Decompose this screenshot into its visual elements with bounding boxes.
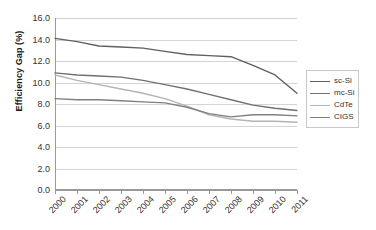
y-axis-tick-label: 6.0	[37, 121, 50, 131]
series-line-sc-si	[55, 38, 297, 93]
legend-swatch-icon	[310, 93, 330, 94]
series-lines	[55, 18, 297, 190]
legend-item-sc-si[interactable]: sc-Si	[310, 75, 354, 87]
x-axis-tickmark	[297, 190, 298, 194]
legend-item-mc-si[interactable]: mc-Si	[310, 87, 354, 99]
legend-swatch-icon	[310, 117, 330, 118]
legend-item-cdte[interactable]: CdTe	[310, 99, 354, 111]
legend-label: CdTe	[334, 101, 353, 109]
series-line-cigs	[55, 99, 297, 117]
legend-item-cigs[interactable]: CIGS	[310, 111, 354, 123]
efficiency-gap-line-chart: Efficiency Gap (%) 16.014.012.010.08.06.…	[0, 0, 376, 230]
y-axis-tick-label: 14.0	[32, 35, 50, 45]
chart-legend: sc-Simc-SiCdTeCIGS	[306, 70, 359, 128]
y-axis-tick-label: 10.0	[32, 78, 50, 88]
y-axis-tick-label: 12.0	[32, 56, 50, 66]
x-axis-tick-labels: 2000200120022003200420052006200720082009…	[55, 194, 297, 230]
y-axis-tick-label: 16.0	[32, 13, 50, 23]
y-axis-tick-label: 0.0	[37, 185, 50, 195]
legend-swatch-icon	[310, 81, 330, 82]
legend-label: sc-Si	[334, 77, 352, 85]
y-axis-tick-label: 4.0	[37, 142, 50, 152]
y-axis-tick-label: 8.0	[37, 99, 50, 109]
legend-label: mc-Si	[334, 89, 354, 97]
y-axis-tick-label: 2.0	[37, 164, 50, 174]
y-axis-tick-labels: 16.014.012.010.08.06.04.02.00.0	[14, 0, 50, 230]
plot-area	[55, 18, 297, 190]
legend-label: CIGS	[334, 113, 354, 121]
legend-swatch-icon	[310, 105, 330, 106]
